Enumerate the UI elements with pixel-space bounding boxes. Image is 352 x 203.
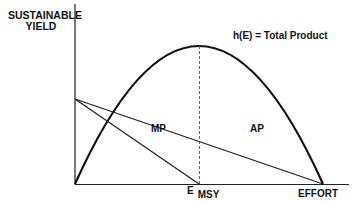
x-axis-label: EFFORT <box>298 189 338 199</box>
mp-label: MP <box>151 124 166 134</box>
y-axis-label-line2: YIELD <box>8 21 74 32</box>
emsy-subscript: MSY <box>198 189 220 200</box>
emsy-main: E <box>187 185 194 196</box>
mp-line <box>75 99 199 184</box>
total-product-label: h(E) = Total Product <box>233 31 328 41</box>
y-axis-label-line1: SUSTAINABLE <box>8 10 74 21</box>
emsy-label: EMSY <box>187 186 219 200</box>
ap-label: AP <box>250 124 264 134</box>
total-product-curve <box>75 46 323 184</box>
y-axis-label: SUSTAINABLE YIELD <box>8 10 74 31</box>
